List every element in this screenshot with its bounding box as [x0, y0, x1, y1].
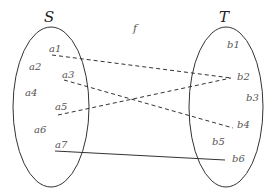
mapping-a1-b2: [52, 55, 231, 78]
function-label: f: [132, 22, 139, 35]
set-label-t: T: [219, 8, 230, 26]
element-b1: b1: [227, 39, 240, 50]
element-a3: a3: [62, 69, 74, 80]
element-a5: a5: [55, 101, 67, 112]
element-b5: b5: [212, 136, 225, 147]
element-a4: a4: [25, 87, 37, 98]
element-b3: b3: [246, 92, 259, 103]
element-a2: a2: [29, 61, 41, 72]
function-diagram: S T f a1 a2 a3 a4 a5 a6 a7 b1 b2 b3 b4 b…: [0, 0, 275, 196]
set-label-s: S: [44, 8, 54, 26]
element-a6: a6: [34, 124, 47, 135]
element-b6: b6: [232, 153, 245, 164]
mapping-a5-b2: [58, 78, 231, 115]
element-b2: b2: [237, 71, 250, 82]
element-b4: b4: [237, 119, 250, 130]
element-a1: a1: [49, 43, 61, 54]
element-a7: a7: [55, 139, 68, 150]
codomain-ellipse: [189, 27, 263, 187]
